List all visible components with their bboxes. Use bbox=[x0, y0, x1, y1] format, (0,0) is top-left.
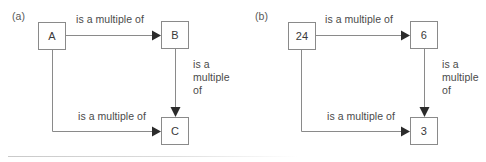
panel-a: (a) A B C is a multiple of is a multiple… bbox=[0, 0, 243, 162]
edge-top-label: is a multiple of bbox=[76, 13, 144, 26]
node-bottom-right: 3 bbox=[410, 117, 438, 145]
edge-bottom-label: is a multiple of bbox=[78, 110, 146, 123]
diagram-figure: (a) A B C is a multiple of is a multiple… bbox=[0, 0, 486, 162]
edge-bottom-arrowhead bbox=[401, 127, 410, 137]
edge-right-arrowhead bbox=[171, 107, 181, 117]
node-top-left: 24 bbox=[288, 22, 316, 50]
node-top-left: A bbox=[38, 22, 66, 50]
edge-top-arrowhead bbox=[401, 31, 410, 41]
edge-bottom-arrowhead bbox=[152, 127, 161, 137]
node-top-right: B bbox=[161, 21, 189, 49]
edge-right-arrowhead bbox=[420, 107, 430, 117]
node-bottom-right-label: 3 bbox=[421, 126, 427, 137]
node-top-left-label: 24 bbox=[296, 31, 309, 42]
panel-b: (b) 24 6 3 is a multiple of is a multipl… bbox=[243, 0, 486, 162]
edge-top-label: is a multiple of bbox=[325, 13, 393, 26]
node-bottom-right: C bbox=[161, 117, 189, 145]
node-bottom-right-label: C bbox=[171, 126, 179, 137]
node-top-right-label: 6 bbox=[421, 30, 427, 41]
edge-right-label-line1: is a bbox=[442, 58, 486, 71]
node-top-right: 6 bbox=[410, 21, 438, 49]
edge-bottom-label: is a multiple of bbox=[327, 110, 395, 123]
footer-divider bbox=[8, 156, 298, 157]
edge-right-label-line2: multiple bbox=[442, 71, 486, 84]
edge-top-arrowhead bbox=[152, 31, 161, 41]
edge-right-label-line3: of bbox=[193, 84, 237, 97]
node-top-right-label: B bbox=[171, 30, 179, 41]
edge-right-label-line3: of bbox=[442, 84, 486, 97]
edge-right-label-line2: multiple bbox=[193, 71, 237, 84]
edge-right-label-line1: is a bbox=[193, 58, 237, 71]
node-top-left-label: A bbox=[48, 31, 56, 42]
